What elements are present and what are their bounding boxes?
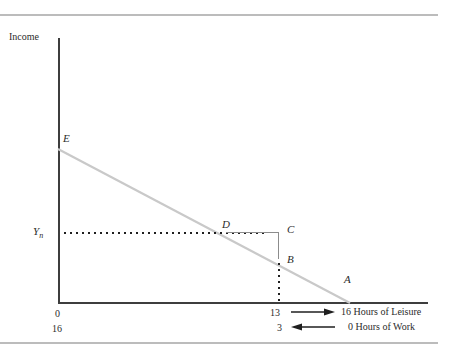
x-tick-work-origin: 16 bbox=[52, 324, 62, 334]
point-label-b: B bbox=[287, 254, 294, 265]
budget-constraint-line bbox=[58, 140, 350, 305]
arrow-right-icon bbox=[291, 307, 335, 317]
x-tick-leisure-origin: 0 bbox=[55, 309, 60, 319]
legend-label-leisure: 16 Hours of Leisure bbox=[341, 307, 421, 317]
point-label-a: A bbox=[344, 274, 351, 285]
y-axis-title: Income bbox=[9, 32, 39, 42]
point-label-e: E bbox=[63, 133, 70, 144]
reservation-income-label: Yn bbox=[33, 226, 43, 240]
arrow-left-icon bbox=[291, 322, 335, 332]
reservation-income-subscript: n bbox=[39, 231, 43, 240]
point-label-d: D bbox=[222, 219, 230, 230]
budget-constraint-chart: Income Yn E D C B A 0 16 13 3 16 Hours o… bbox=[0, 0, 449, 359]
segment-c-to-b bbox=[278, 232, 279, 259]
point-label-c: C bbox=[287, 224, 294, 235]
legend-label-work: 0 Hours of Work bbox=[348, 322, 415, 332]
x-tick-leisure-13: 13 bbox=[270, 308, 280, 318]
x-tick-work-3: 3 bbox=[277, 323, 282, 333]
segment-d-to-c bbox=[226, 232, 279, 233]
dotted-drop-line-b-to-axis bbox=[278, 261, 280, 303]
